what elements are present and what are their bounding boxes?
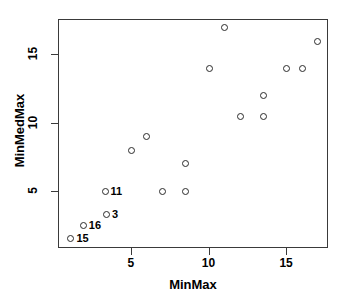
x-axis-tick-label: 15 — [271, 257, 301, 270]
y-axis-tick — [51, 54, 58, 55]
y-axis-tick-label: 10 — [27, 107, 40, 137]
x-axis-tick — [286, 248, 287, 255]
y-axis-tick-label: 5 — [27, 175, 40, 205]
plot-frame — [58, 19, 328, 248]
x-axis-title: MinMax — [58, 277, 328, 292]
y-axis-title: MinMedMax — [12, 81, 27, 181]
x-axis-tick-label: 10 — [194, 257, 224, 270]
scatter-plot: 1516311 5101551015 MinMax MinMedMax — [0, 0, 344, 301]
x-axis-tick — [131, 248, 132, 255]
y-axis-tick — [51, 191, 58, 192]
y-axis-tick — [51, 123, 58, 124]
y-axis-tick-label: 15 — [27, 39, 40, 69]
x-axis-tick-label: 5 — [116, 257, 146, 270]
x-axis-tick — [209, 248, 210, 255]
